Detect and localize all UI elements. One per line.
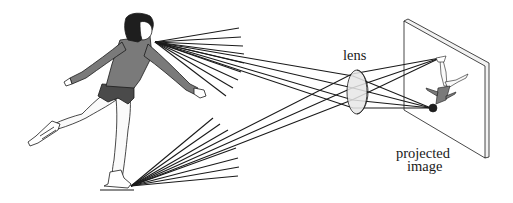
left-hand	[64, 78, 72, 86]
lens-projection-diagram: lens projected image	[0, 0, 513, 203]
lens-label: lens	[343, 47, 367, 63]
lens	[347, 70, 368, 114]
image-head	[429, 104, 437, 112]
head-ray-fan	[155, 28, 244, 96]
standing-skate-icon	[104, 170, 131, 188]
skate-ray	[131, 124, 220, 186]
right-hand	[194, 88, 206, 98]
lens-ray-set	[131, 42, 440, 186]
screen-label-line2: image	[407, 158, 442, 174]
skate-ray-fan	[131, 118, 239, 186]
skater-figure	[28, 13, 206, 190]
standing-leg	[112, 98, 130, 178]
torso	[106, 36, 152, 88]
